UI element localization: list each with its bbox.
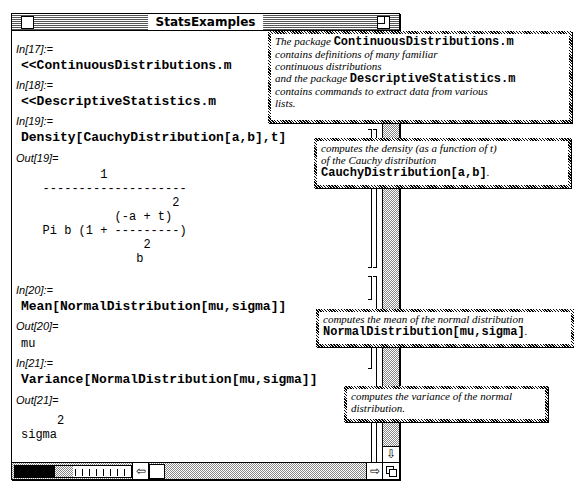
- note-code: ContinuousDistributions.m: [334, 35, 514, 49]
- scroll-right-arrow-icon[interactable]: ⇨: [366, 463, 382, 479]
- horizontal-scrollbar[interactable]: ⇦ ⇨: [12, 462, 382, 479]
- note-text: and the package: [275, 72, 350, 84]
- cell-label-out21: Out[21]=: [16, 394, 59, 406]
- note-text: distribution.: [351, 402, 541, 414]
- scroll-down-arrow-icon[interactable]: ⇩: [383, 446, 399, 462]
- input-cell-in20[interactable]: Mean[NormalDistribution[mu,sigma]]: [21, 299, 286, 314]
- note-text: contains commands to extract data from v…: [275, 85, 565, 97]
- magnification-ruler[interactable]: [14, 465, 132, 478]
- output-cell-out19[interactable]: 1 -------------------- 2 (-a + t) Pi b (…: [21, 168, 187, 266]
- output-cell-out21[interactable]: 2 sigma: [21, 414, 64, 442]
- cell-bracket[interactable]: [368, 276, 372, 300]
- input-cell-in19[interactable]: Density[CauchyDistribution[a,b],t]: [21, 130, 286, 145]
- ruler-fill-pattern: [55, 466, 73, 477]
- cell-label-in17: In[17]:=: [16, 43, 53, 55]
- title-bar[interactable]: StatsExamples: [12, 14, 399, 31]
- note-text: computes the mean of the normal distribu…: [323, 313, 567, 325]
- note-text: .: [487, 166, 490, 178]
- output-cell-out20[interactable]: mu: [21, 337, 35, 351]
- ruler-ticks: [75, 469, 130, 476]
- note-code: NormalDistribution[mu,sigma]: [323, 325, 525, 339]
- note-text: lists.: [275, 97, 565, 109]
- note-text: computes the variance of the normal: [351, 390, 541, 402]
- grow-box-icon[interactable]: [382, 462, 399, 479]
- cell-label-in21: In[21]:=: [16, 357, 53, 369]
- input-cell-in21[interactable]: Variance[NormalDistribution[mu,sigma]]: [21, 372, 317, 387]
- cell-label-out19: Out[19]=: [16, 152, 59, 164]
- note-variance: computes the variance of the normal dist…: [344, 386, 548, 422]
- horizontal-scroll-thumb[interactable]: [149, 464, 165, 479]
- zoom-box-icon[interactable]: [377, 16, 390, 29]
- note-text: computes the density (as a function of t…: [321, 142, 564, 154]
- cell-label-in18: In[18]:=: [16, 79, 53, 91]
- cell-label-in20: In[20]:=: [16, 284, 53, 296]
- cell-label-out20: Out[20]=: [16, 320, 59, 332]
- window-title: StatsExamples: [148, 14, 264, 30]
- note-text: of the Cauchy distribution: [321, 154, 564, 166]
- note-text: continuous distributions: [275, 60, 565, 72]
- input-cell-in18[interactable]: <<DescriptiveStatistics.m: [21, 94, 216, 109]
- note-text: contains definitions of many familiar: [275, 48, 565, 60]
- note-text: The package: [275, 35, 334, 47]
- note-text: .: [525, 325, 528, 337]
- scroll-left-arrow-icon[interactable]: ⇦: [132, 463, 149, 479]
- note-code: CauchyDistribution[a,b]: [321, 166, 487, 180]
- note-packages: The package ContinuousDistributions.m co…: [268, 31, 572, 123]
- cell-label-in19: In[19]:=: [16, 115, 53, 127]
- note-mean: computes the mean of the normal distribu…: [316, 309, 574, 347]
- input-cell-in17[interactable]: <<ContinuousDistributions.m: [21, 58, 232, 73]
- close-box-icon[interactable]: [21, 16, 34, 29]
- note-density: computes the density (as a function of t…: [314, 138, 571, 188]
- cell-bracket[interactable]: [368, 347, 372, 369]
- ruler-fill: [15, 466, 55, 477]
- note-code: DescriptiveStatistics.m: [350, 72, 516, 86]
